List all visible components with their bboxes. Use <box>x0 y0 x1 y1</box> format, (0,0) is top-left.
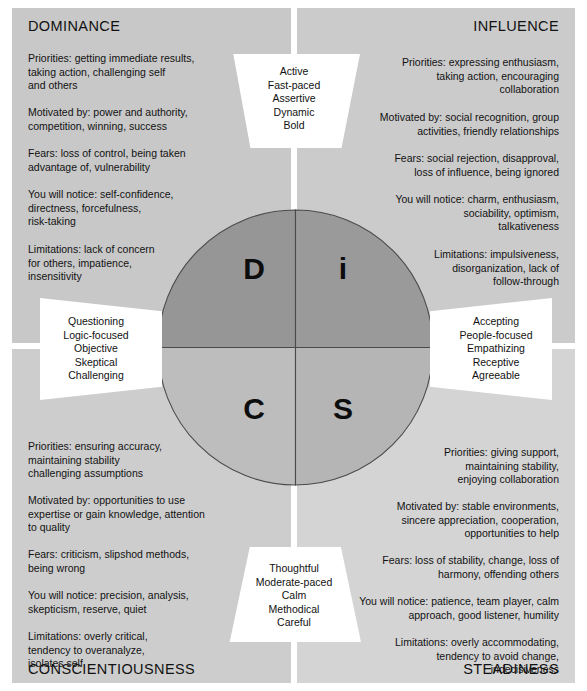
callout-top-text: Active Fast-paced Assertive Dynamic Bold <box>268 65 321 137</box>
disc-circle: D i C S <box>157 209 434 486</box>
conscientiousness-motivated-by: Motivated by: opportunities to use exper… <box>28 494 280 535</box>
circle-quarter-dominance <box>158 210 296 348</box>
quadrant-heading-dominance: DOMINANCE <box>28 18 120 34</box>
circle-letter-i: i <box>323 252 363 286</box>
disc-model-diagram: DOMINANCE Priorities: getting immediate … <box>0 0 587 691</box>
dominance-motivated-by: Motivated by: power and authority, compe… <box>28 106 278 133</box>
dominance-fears: Fears: loss of control, being taken adva… <box>28 147 278 174</box>
callout-bottom-thoughtful: Thoughtful Moderate-paced Calm Methodica… <box>227 547 361 642</box>
steadiness-motivated-by: Motivated by: stable environments, since… <box>294 500 559 541</box>
circle-letter-d: D <box>234 252 274 286</box>
conscientiousness-fears: Fears: criticism, slipshod methods, bein… <box>28 548 280 575</box>
circle-quarter-influence <box>296 210 434 348</box>
quadrant-heading-influence: INFLUENCE <box>473 18 559 34</box>
callout-left-questioning: Questioning Logic-focused Objective Skep… <box>40 298 162 400</box>
callout-right-accepting: Accepting People-focused Empathizing Rec… <box>430 298 552 400</box>
circle-quarter-conscientiousness <box>158 348 296 486</box>
quadrant-heading-steadiness: STEADINESS <box>463 661 559 677</box>
influence-fears: Fears: social rejection, disapproval, lo… <box>299 152 559 179</box>
callout-left-text: Questioning Logic-focused Objective Skep… <box>63 315 138 383</box>
circle-quarter-steadiness <box>296 348 434 486</box>
circle-letter-s: S <box>323 392 363 426</box>
disc-circle-svg <box>157 209 434 486</box>
callout-right-text: Accepting People-focused Empathizing Rec… <box>450 315 533 383</box>
callout-bottom-text: Thoughtful Moderate-paced Calm Methodica… <box>256 559 332 630</box>
circle-letter-c: C <box>234 392 274 426</box>
quadrant-heading-conscientiousness: CONSCIENTIOUSNESS <box>28 661 195 677</box>
